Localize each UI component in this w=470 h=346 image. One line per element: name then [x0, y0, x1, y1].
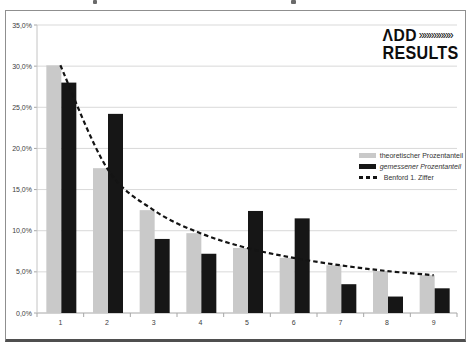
logo-text-results: RESULTS	[382, 45, 458, 63]
page: 0,0%5,0%10,0%15,0%20,0%25,0%30,0%35,0%12…	[0, 0, 470, 346]
legend-label: theoretischer Prozentanteil	[380, 152, 463, 159]
legend-label: gemessener Prozentanteil	[380, 163, 461, 170]
svg-text:5: 5	[245, 319, 249, 326]
bars-measured	[61, 83, 449, 313]
x-axis-labels: 123456789	[37, 313, 457, 326]
y-axis-labels: 0,0%5,0%10,0%15,0%20,0%25,0%30,0%35,0%	[12, 22, 32, 317]
add-results-logo: ΛDD »»»»»»» RESULTS	[382, 27, 458, 63]
chevrons-icon: »»»»»»»	[418, 29, 451, 43]
svg-text:4: 4	[198, 319, 202, 326]
svg-text:6: 6	[292, 319, 296, 326]
chart-legend: theoretischer Prozentanteil gemessener P…	[359, 152, 463, 181]
theoretical-swatch	[359, 153, 376, 158]
svg-text:15,0%: 15,0%	[12, 186, 32, 193]
legend-item-measured: gemessener Prozentanteil	[359, 163, 463, 170]
svg-text:7: 7	[338, 319, 342, 326]
svg-text:35,0%: 35,0%	[12, 22, 32, 29]
svg-text:8: 8	[385, 319, 389, 326]
legend-item-benford-line: Benford 1. Ziffer	[359, 174, 463, 181]
svg-text:2: 2	[105, 319, 109, 326]
svg-text:0,0%: 0,0%	[16, 310, 32, 317]
svg-text:25,0%: 25,0%	[12, 104, 32, 111]
logo-text-add: ΛDD	[382, 27, 416, 44]
svg-text:30,0%: 30,0%	[12, 63, 32, 70]
svg-text:1: 1	[58, 319, 62, 326]
measured-swatch	[359, 164, 376, 169]
svg-text:20,0%: 20,0%	[12, 145, 32, 152]
svg-text:10,0%: 10,0%	[12, 227, 32, 234]
svg-text:5,0%: 5,0%	[16, 268, 32, 275]
legend-item-theoretical: theoretischer Prozentanteil	[359, 152, 463, 159]
svg-text:3: 3	[152, 319, 156, 326]
legend-label: Benford 1. Ziffer	[384, 174, 434, 181]
svg-text:9: 9	[432, 319, 436, 326]
benford-line-swatch	[359, 176, 380, 179]
